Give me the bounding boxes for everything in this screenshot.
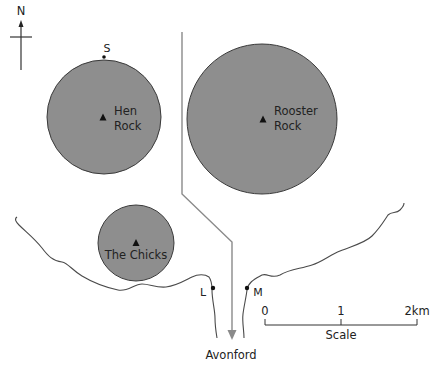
rooster-rock-label-line1: Rooster [274,104,318,118]
scale-bar: 0 1 2km Scale [261,304,429,342]
scale-title: Scale [326,328,357,342]
point-s-dot [102,55,106,59]
point-m-label: M [253,286,263,299]
scale-label-0: 0 [261,304,268,318]
point-l-dot [211,286,215,290]
the-chicks-label: The Chicks [104,248,168,262]
island-hen-rock: Hen Rock [47,60,161,174]
point-s: S [102,42,110,59]
island-rooster-rock: Rooster Rock [187,44,337,194]
north-arrow-head-icon [19,20,24,27]
map-canvas: N Hen Rock S Rooster Rock The Chicks L M [0,0,442,370]
scale-label-2: 2km [404,304,429,318]
point-m-dot [245,286,249,290]
road-arrowhead-icon [228,330,237,340]
hen-rock-label-line1: Hen [114,104,137,118]
north-label: N [17,4,26,18]
scale-label-1: 1 [337,304,344,318]
point-l-label: L [200,286,207,299]
hen-rock-label-line2: Rock [114,119,142,133]
point-s-label: S [104,42,111,55]
rooster-rock-label-line2: Rock [274,119,302,133]
point-m: M [245,286,263,299]
north-arrow: N [10,4,32,70]
island-the-chicks: The Chicks [98,205,174,281]
town-avonford-label: Avonford [205,348,256,362]
